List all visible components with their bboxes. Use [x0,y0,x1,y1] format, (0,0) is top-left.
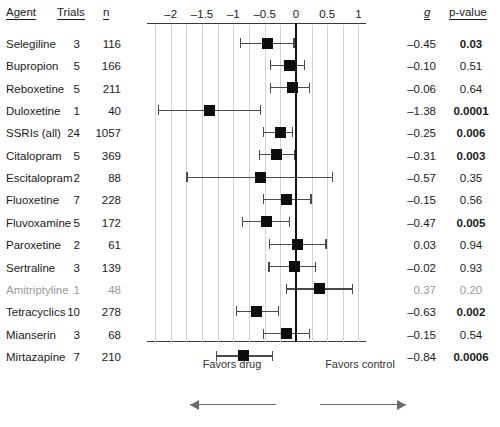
effect-size-value: –0.02 [398,262,436,274]
forest-row [147,102,366,118]
forest-row [147,80,366,96]
ci-lower-cap [268,262,269,272]
trials-count: 7 [48,351,80,363]
point-estimate-marker [275,127,286,138]
column-header-agent: Agent [6,6,36,18]
ci-upper-cap [272,351,273,361]
trials-count: 5 [48,60,80,72]
ci-lower-cap [240,38,241,48]
sample-size: 40 [87,105,121,117]
effect-size-value: –0.31 [398,150,436,162]
ci-upper-cap [289,217,290,227]
forest-row [147,326,366,342]
ci-upper-cap [332,172,333,182]
p-value: 0.54 [446,329,496,341]
ci-upper-cap [352,284,353,294]
sample-size: 1057 [87,127,121,139]
p-value: 0.20 [446,284,496,296]
point-estimate-marker [271,149,282,160]
trials-count: 10 [48,306,80,318]
effect-size-value: –0.15 [398,194,436,206]
sample-size: 369 [87,150,121,162]
point-estimate-marker [262,38,273,49]
x-tick-label: 1 [338,8,378,20]
p-value: 0.006 [446,127,496,139]
sample-size: 61 [87,239,121,251]
sample-size: 139 [87,262,121,274]
p-value: 0.51 [446,60,496,72]
sample-size: 166 [87,60,121,72]
point-estimate-marker [255,172,266,183]
ci-upper-cap [278,306,279,316]
point-estimate-marker [281,194,292,205]
column-header-n: n [103,6,109,18]
effect-size-value: –0.84 [398,351,436,363]
trials-count: 3 [48,38,80,50]
sample-size: 228 [87,194,121,206]
point-estimate-marker [314,283,325,294]
column-header-trials: Trials [57,6,85,18]
effect-size-value: –0.57 [398,172,436,184]
trials-count: 2 [48,239,80,251]
point-estimate-marker [292,239,303,250]
trials-count: 5 [48,83,80,95]
point-estimate-marker [284,60,295,71]
p-value: 0.03 [446,38,496,50]
trials-count: 1 [48,105,80,117]
p-value: 0.93 [446,262,496,274]
sample-size: 210 [87,351,121,363]
effect-size-value: –0.10 [398,60,436,72]
ci-lower-cap [158,105,159,115]
trials-count: 3 [48,329,80,341]
point-estimate-marker [251,306,262,317]
p-value: 0.003 [446,150,496,162]
trials-count: 5 [48,217,80,229]
ci-lower-cap [286,284,287,294]
column-header-g: g [424,6,430,18]
ci-lower-cap [263,127,264,137]
sample-size: 278 [87,306,121,318]
p-value: 0.56 [446,194,496,206]
ci-lower-cap [269,239,270,249]
effect-size-value: –0.47 [398,217,436,229]
trials-count: 1 [48,284,80,296]
effect-size-value: –1.38 [398,105,436,117]
effect-size-value: –0.45 [398,38,436,50]
reference-line [295,23,297,342]
sample-size: 68 [87,329,121,341]
left-arrow-icon [190,398,276,412]
ci-upper-cap [309,83,310,93]
ci-upper-cap [315,262,316,272]
forest-row [147,259,366,275]
ci-upper-cap [292,127,293,137]
point-estimate-marker [281,328,292,339]
forest-row [147,191,366,207]
effect-size-value: 0.37 [398,284,436,296]
p-value: 0.35 [446,172,496,184]
plot-area [147,25,366,342]
effect-size-value: –0.15 [398,329,436,341]
ci-upper-cap [325,239,326,249]
ci-lower-cap [263,329,264,339]
sample-size: 48 [87,284,121,296]
sample-size: 88 [87,172,121,184]
p-value: 0.64 [446,83,496,95]
ci-lower-cap [236,306,237,316]
trials-count: 2 [48,172,80,184]
sample-size: 116 [87,38,121,50]
point-estimate-marker [204,105,215,116]
forest-row [147,169,366,185]
top-axis-line [147,23,366,24]
ci-lower-cap [259,150,260,160]
ci-upper-cap [309,329,310,339]
ci-lower-cap [270,60,271,70]
forest-row [147,124,366,140]
forest-row [147,236,366,252]
ci-upper-cap [310,194,311,204]
p-value: 0.0006 [446,351,496,363]
trials-count: 24 [48,127,80,139]
favors-control-label: Favors control [325,358,395,370]
ci-upper-cap [260,105,261,115]
trials-count: 5 [48,150,80,162]
effect-size-value: –0.06 [398,83,436,95]
